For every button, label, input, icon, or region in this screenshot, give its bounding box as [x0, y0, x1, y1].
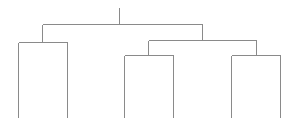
dendrogram: [0, 0, 296, 128]
